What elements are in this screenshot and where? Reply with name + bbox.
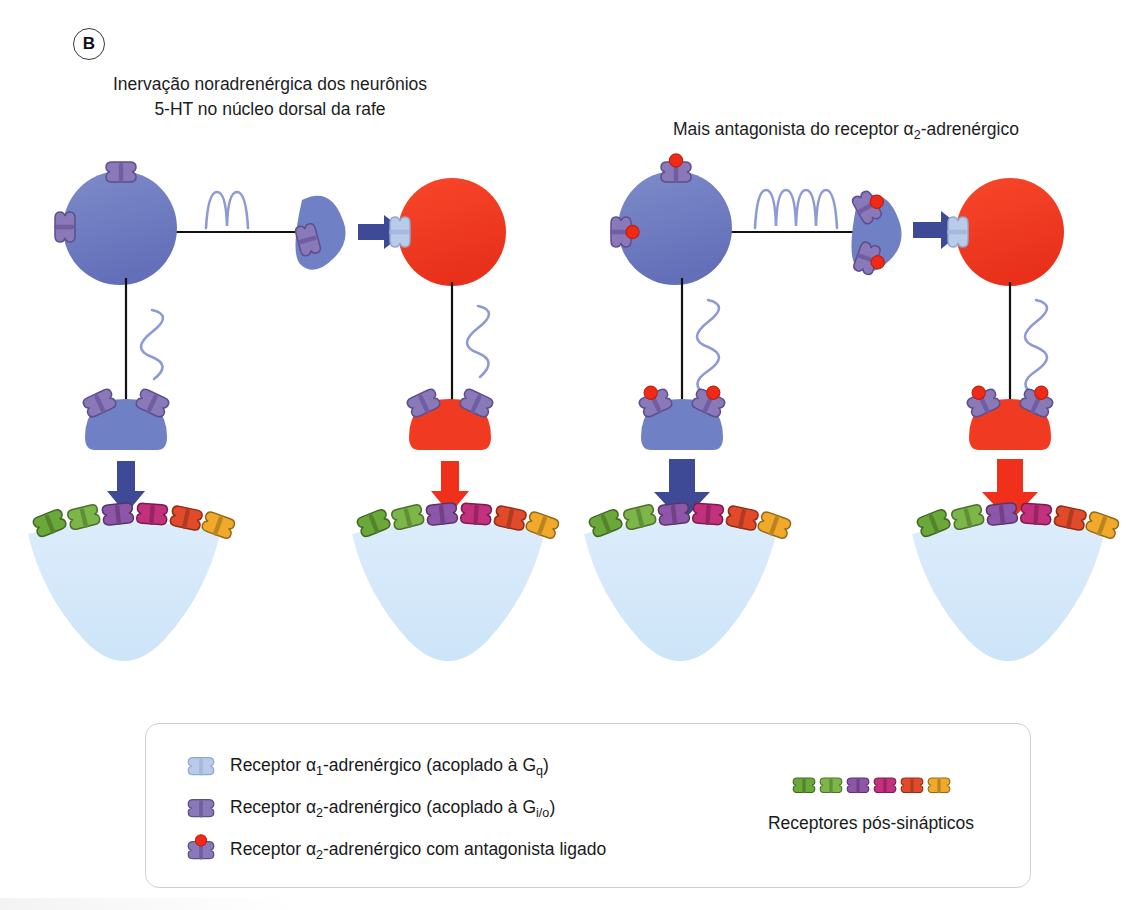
postsynaptic-receptor-icons [736, 768, 1006, 804]
legend-item-alpha1: Receptor α1-adrenérgico (acoplado à Gq) [184, 746, 606, 788]
postsynaptic-cell-col2 [352, 521, 544, 661]
soma-receptor-alpha2-left-col1 [54, 212, 75, 242]
postsynaptic-cell-col3 [584, 521, 776, 661]
column-2-group [352, 388, 560, 661]
noradrenergic-soma-col1 [63, 171, 177, 285]
postsynaptic-receptor [986, 502, 1018, 526]
postsynaptic-receptor-icon [872, 770, 898, 802]
page-edge-artifact [0, 898, 300, 910]
postsynaptic-receptor [1020, 503, 1051, 526]
descending-wave-col3 [697, 300, 719, 395]
postsynaptic-receptor-icon [926, 770, 952, 802]
legend-postsynaptic-label: Receptores pós-sinápticos [736, 813, 1006, 834]
alpha-subscript: 2 [316, 807, 323, 821]
legend-item-list: Receptor α1-adrenérgico (acoplado à Gq) … [184, 746, 606, 872]
firing-wave-col1 [206, 192, 248, 228]
serotonergic-soma-col1 [398, 178, 506, 286]
postsynaptic-cell-col4 [912, 521, 1104, 661]
postsynaptic-receptor [102, 502, 134, 526]
legend-box: Receptor α1-adrenérgico (acoplado à Gq) … [145, 723, 1031, 888]
postsynaptic-receptor-icon [791, 770, 817, 802]
alpha-glyph: α [306, 755, 316, 775]
postsynaptic-receptor-icon [818, 770, 844, 802]
column-4-group [912, 380, 1120, 661]
serotonergic-soma-col3 [956, 178, 1064, 286]
postsynaptic-receptor-icon [845, 770, 871, 802]
firing-wave-col3 [755, 190, 837, 228]
legend-item-alpha2-antagonist: Receptor α2-adrenérgico com antagonista … [184, 830, 606, 872]
alpha1-receptor-icon [184, 750, 218, 784]
alpha2-receptor-antagonist-icon [184, 834, 218, 868]
legend-item-alpha2: Receptor α2-adrenérgico (acoplado à Gi/o… [184, 788, 606, 830]
alpha-glyph: α [306, 839, 316, 859]
descending-wave-col1 [141, 310, 163, 379]
legend-label-alpha1: Receptor α1-adrenérgico (acoplado à Gq) [230, 755, 549, 778]
alpha2-receptor-icon [184, 792, 218, 826]
soma-receptor-alpha1-col3 [947, 217, 968, 247]
alpha-subscript: 2 [316, 849, 323, 863]
postsynaptic-receptor-icon [899, 770, 925, 802]
soma-receptor-alpha2-antagonist-top-col3 [661, 154, 691, 183]
alpha-subscript: 1 [316, 765, 323, 779]
postsynaptic-receptor [692, 503, 723, 526]
g-protein-subscript: i/o [536, 807, 549, 821]
postsynaptic-receptor [426, 502, 458, 526]
serotonergic-wave-col1 [467, 306, 489, 377]
soma-receptor-alpha2-top-col1 [106, 162, 136, 183]
postsynaptic-cell-col1 [28, 521, 220, 661]
legend-label-alpha2-antagonist: Receptor α2-adrenérgico com antagonista … [230, 839, 606, 862]
postsynaptic-receptor [658, 502, 690, 526]
postsynaptic-receptor [136, 503, 167, 526]
serotonergic-wave-col3 [1025, 300, 1047, 395]
legend-postsynaptic-group: Receptores pós-sinápticos [736, 768, 1006, 834]
alpha-glyph: α [306, 797, 316, 817]
soma-receptor-alpha1-col1 [389, 217, 410, 247]
legend-label-alpha2: Receptor α2-adrenérgico (acoplado à Gi/o… [230, 797, 555, 820]
postsynaptic-receptor [460, 503, 491, 526]
